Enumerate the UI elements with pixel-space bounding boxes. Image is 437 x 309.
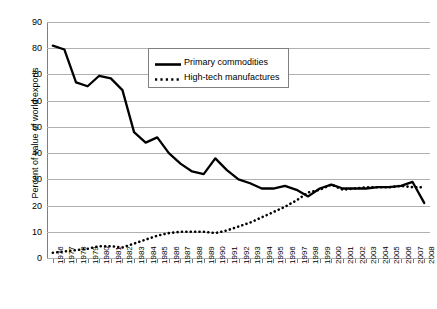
x-axis-tick-label: 2006 bbox=[405, 246, 413, 264]
x-axis-tick-label: 1993 bbox=[254, 246, 262, 264]
x-axis-tick bbox=[53, 259, 54, 263]
x-axis-tick bbox=[215, 259, 216, 263]
x-axis-tick bbox=[401, 259, 402, 263]
x-axis-tick-label: 1998 bbox=[312, 246, 320, 264]
x-axis-tick bbox=[122, 259, 123, 263]
x-axis-tick-label: 1996 bbox=[289, 246, 297, 264]
line-chart: Percent of value of world exports 010203… bbox=[0, 0, 437, 309]
legend-label-high-tech-manufactures: High-tech manufactures bbox=[184, 72, 280, 82]
x-axis-tick-label: 2000 bbox=[335, 246, 343, 264]
x-axis-tick bbox=[204, 259, 205, 263]
x-axis-tick bbox=[331, 259, 332, 263]
y-axis-tick-label: 10 bbox=[20, 228, 42, 237]
y-axis-tick-label: 20 bbox=[20, 202, 42, 211]
x-axis-tick bbox=[76, 259, 77, 263]
x-axis-tick bbox=[389, 259, 390, 263]
x-axis-tick bbox=[273, 259, 274, 263]
legend-label-primary-commodities: Primary commodities bbox=[184, 57, 268, 67]
legend-item-primary-commodities: Primary commodities bbox=[155, 54, 282, 69]
x-axis-tick bbox=[308, 259, 309, 263]
x-axis-tick-label: 2008 bbox=[428, 246, 436, 264]
x-axis-tick bbox=[320, 259, 321, 263]
x-axis-tick bbox=[227, 259, 228, 263]
x-axis-tick bbox=[169, 259, 170, 263]
x-axis-tick-label: 1980 bbox=[103, 246, 111, 264]
x-axis-tick bbox=[413, 259, 414, 263]
y-axis-tick-label: 60 bbox=[20, 97, 42, 106]
x-axis-tick-label: 1983 bbox=[138, 246, 146, 264]
x-axis-tick bbox=[88, 259, 89, 263]
series-line-high-tech-manufactures bbox=[53, 185, 424, 253]
legend-swatch-dotted-icon bbox=[155, 71, 181, 82]
x-axis-tick bbox=[343, 259, 344, 263]
y-axis-tick-label: 0 bbox=[20, 254, 42, 263]
x-axis-tick bbox=[355, 259, 356, 263]
legend-swatch-solid-icon bbox=[155, 56, 181, 67]
y-axis-tick-label: 40 bbox=[20, 149, 42, 158]
x-axis-tick-label: 1988 bbox=[196, 246, 204, 264]
x-axis-tick bbox=[366, 259, 367, 263]
x-axis-tick-label: 1978 bbox=[80, 246, 88, 264]
x-axis-tick-label: 2003 bbox=[370, 246, 378, 264]
legend-item-high-tech-manufactures: High-tech manufactures bbox=[155, 69, 282, 84]
x-axis-tick-label: 1977 bbox=[68, 246, 76, 264]
x-axis-tick bbox=[111, 259, 112, 263]
x-axis-tick-label: 2005 bbox=[393, 246, 401, 264]
x-axis-tick bbox=[285, 259, 286, 263]
x-axis-tick-label: 1987 bbox=[184, 246, 192, 264]
x-axis-tick bbox=[424, 259, 425, 263]
x-axis-tick-label: 1982 bbox=[126, 246, 134, 264]
x-axis-tick-label: 2001 bbox=[347, 246, 355, 264]
x-axis-tick bbox=[192, 259, 193, 263]
y-axis-tick-label: 90 bbox=[20, 18, 42, 27]
x-axis-tick bbox=[146, 259, 147, 263]
x-axis-tick bbox=[180, 259, 181, 263]
y-axis-tick-label: 70 bbox=[20, 70, 42, 79]
x-axis-tick-label: 1991 bbox=[231, 246, 239, 264]
y-axis-tick-label: 50 bbox=[20, 123, 42, 132]
y-axis-title: Percent of value of world exports bbox=[30, 38, 40, 228]
legend: Primary commodities High-tech manufactur… bbox=[148, 48, 289, 88]
x-axis-tick bbox=[250, 259, 251, 263]
x-axis-tick bbox=[262, 259, 263, 263]
x-axis-tick bbox=[99, 259, 100, 263]
x-axis-tick-label: 1985 bbox=[161, 246, 169, 264]
x-axis-tick bbox=[239, 259, 240, 263]
x-axis-tick bbox=[64, 259, 65, 263]
y-axis-tick-label: 30 bbox=[20, 175, 42, 184]
y-axis-tick-label: 80 bbox=[20, 44, 42, 53]
x-axis-tick-label: 1990 bbox=[219, 246, 227, 264]
x-axis-tick bbox=[297, 259, 298, 263]
x-axis-tick bbox=[134, 259, 135, 263]
x-axis-tick-label: 1995 bbox=[277, 246, 285, 264]
x-axis-tick bbox=[378, 259, 379, 263]
x-axis-tick bbox=[157, 259, 158, 263]
